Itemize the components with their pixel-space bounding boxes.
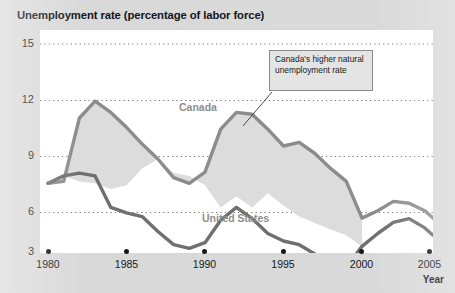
ytick-label-15: 15 bbox=[8, 37, 34, 49]
xtick-dot-2005 bbox=[427, 249, 432, 254]
xtick-dot-1980 bbox=[46, 249, 51, 254]
xtick-label-1995: 1995 bbox=[260, 258, 306, 270]
xtick-dot-1990 bbox=[202, 249, 207, 254]
annotation-callout: Canada's higher natural unemployment rat… bbox=[269, 50, 373, 91]
xtick-dot-2000 bbox=[359, 249, 364, 254]
xtick-dot-1995 bbox=[281, 249, 286, 254]
ytick-label-9: 9 bbox=[8, 149, 34, 161]
xtick-label-1990: 1990 bbox=[182, 258, 228, 270]
chart-title: Unemployment rate (percentage of labor f… bbox=[17, 9, 264, 21]
xtick-dot-1985 bbox=[124, 249, 129, 254]
series-label-united-states: United States bbox=[202, 212, 269, 224]
series-label-canada: Canada bbox=[179, 101, 217, 113]
ytick-label-12: 12 bbox=[8, 93, 34, 105]
axis-label-year: Year bbox=[423, 274, 444, 285]
xtick-label-2005: 2005 bbox=[407, 258, 453, 270]
chart-figure: Unemployment rate (percentage of labor f… bbox=[0, 0, 455, 293]
xtick-label-1985: 1985 bbox=[104, 258, 150, 270]
ytick-label-3: 3 bbox=[8, 245, 34, 257]
xtick-label-2000: 2000 bbox=[339, 258, 385, 270]
ytick-label-6: 6 bbox=[8, 205, 34, 217]
xtick-label-1980: 1980 bbox=[25, 258, 71, 270]
